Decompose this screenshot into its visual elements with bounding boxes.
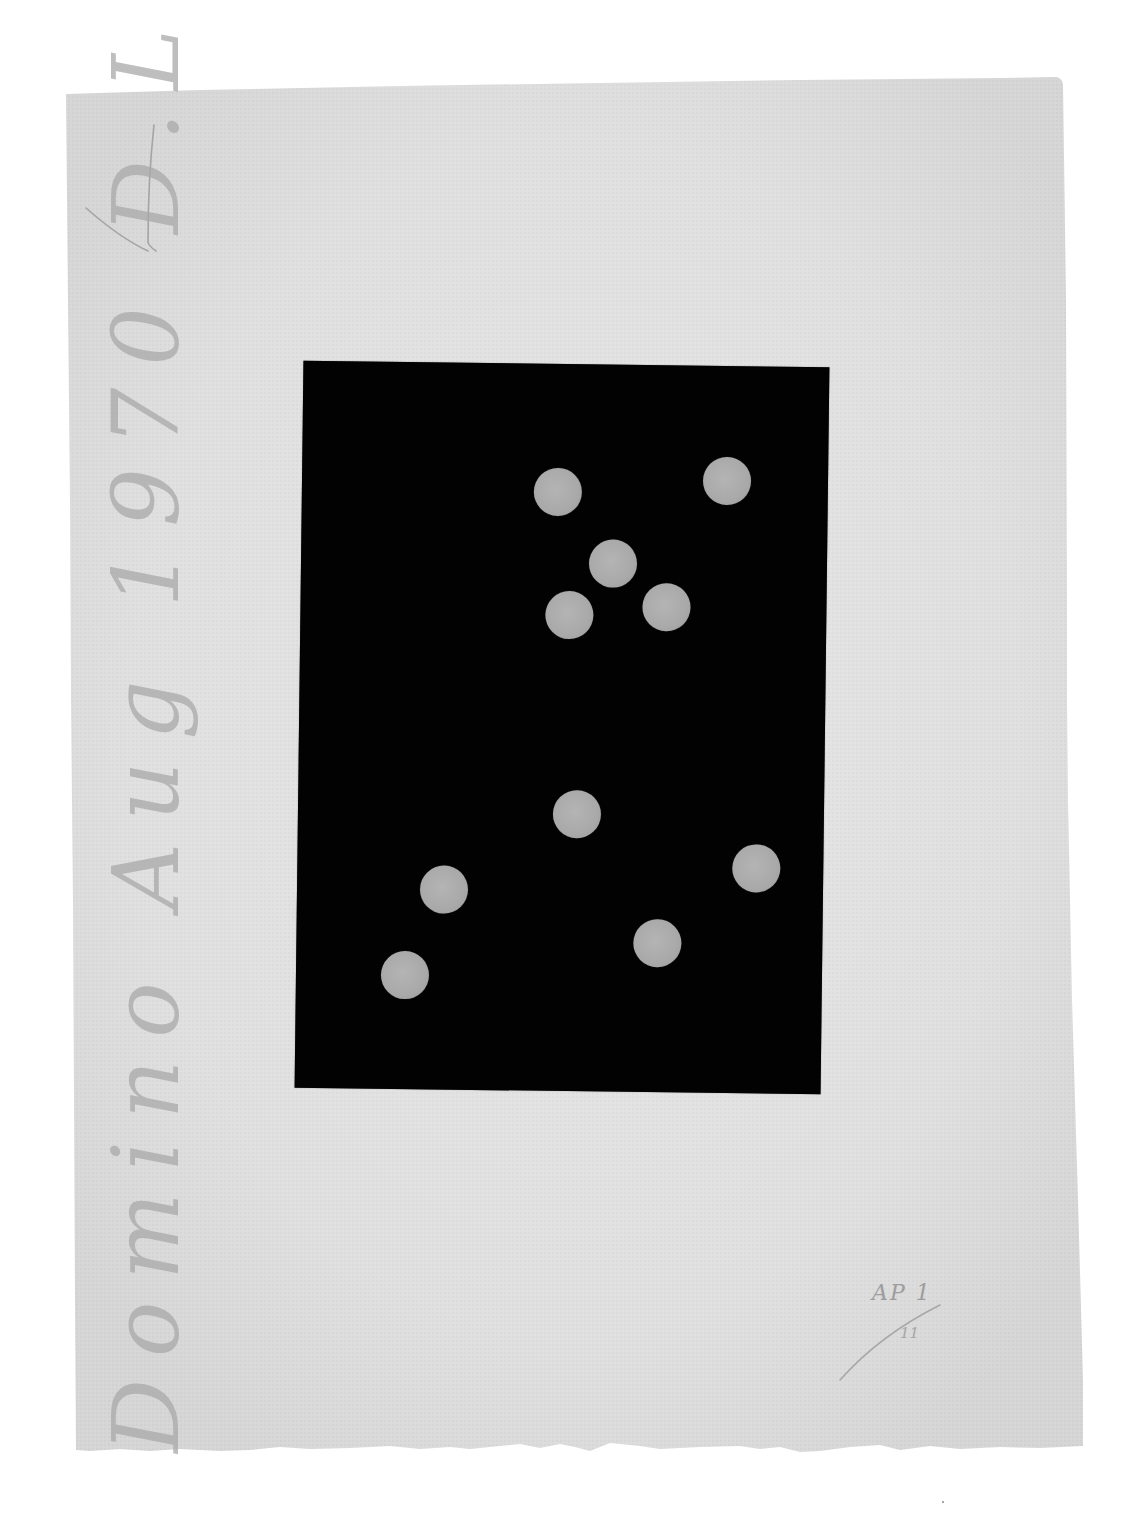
- edition-mark: AP 1 11: [840, 1280, 960, 1375]
- artwork-photo: Domino Aug 1970 D.L AP 1 11: [0, 0, 1133, 1529]
- grey-dot: [553, 790, 602, 839]
- grey-dot: [589, 539, 638, 588]
- grey-dot: [732, 844, 781, 893]
- pencil-inscription: Domino Aug 1970 D.L: [93, 7, 200, 1453]
- grey-dot: [534, 468, 583, 517]
- grey-dot: [703, 457, 752, 506]
- grey-dot: [633, 919, 682, 968]
- grey-dot: [545, 591, 594, 640]
- grey-dot: [381, 951, 430, 1000]
- edition-total: 11: [900, 1324, 919, 1342]
- paper-speck: [942, 1501, 944, 1503]
- edition-number: AP 1: [872, 1280, 932, 1305]
- black-plate: [295, 361, 830, 1094]
- grey-dot: [420, 865, 469, 914]
- grey-dot: [642, 583, 691, 632]
